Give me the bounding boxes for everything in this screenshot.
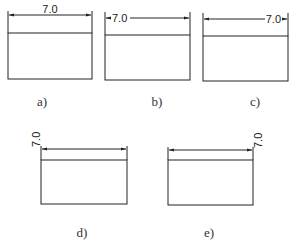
caption-b: b) xyxy=(152,94,163,109)
dimension-text-b: 7.0 xyxy=(112,12,127,24)
caption-a: a) xyxy=(37,94,47,109)
panel-b: 7.0 b) xyxy=(105,11,190,109)
caption-d: d) xyxy=(77,225,88,240)
dimension-text-e: 7.0 xyxy=(252,133,264,148)
rectangle-c xyxy=(203,36,288,81)
rectangle-e xyxy=(168,160,253,205)
panel-e: 7.0 e) xyxy=(168,133,264,240)
caption-e: e) xyxy=(204,225,214,240)
caption-c: c) xyxy=(250,94,260,109)
dimension-placement-diagram: 7.0 a) 7.0 b) 7.0 c) 7.0 d) 7.0 e) xyxy=(0,0,292,250)
rectangle-d xyxy=(41,160,127,204)
dimension-text-c: 7.0 xyxy=(266,13,281,25)
rectangle-a xyxy=(8,33,92,79)
rectangle-b xyxy=(105,35,190,80)
dimension-text-d: 7.0 xyxy=(30,132,42,147)
dimension-text-a: 7.0 xyxy=(42,3,57,15)
panel-a: 7.0 a) xyxy=(8,3,92,109)
panel-c: 7.0 c) xyxy=(203,12,288,109)
panel-d: 7.0 d) xyxy=(30,132,127,240)
